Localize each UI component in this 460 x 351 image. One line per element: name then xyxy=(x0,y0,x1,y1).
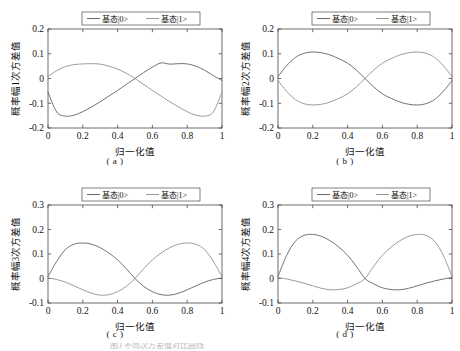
y-tick-label: -0.2 xyxy=(259,123,274,133)
y-tick-label: 0.1 xyxy=(32,49,44,59)
x-tick-label: 0.8 xyxy=(411,306,423,316)
y-tick-label: 0.3 xyxy=(32,200,44,210)
x-tick-label: 0 xyxy=(46,131,51,141)
y-tick-label: -0.1 xyxy=(259,99,274,109)
y-tick-label: 0.3 xyxy=(262,200,274,210)
chart-panel-c: 00.20.40.60.81-0.100.10.20.3归一化值概率幅3次方差值… xyxy=(0,176,230,351)
y-tick-label: 0 xyxy=(39,74,44,84)
y-axis-label-d: 概率幅4次方差值 xyxy=(240,217,251,292)
x-tick-label: 0.4 xyxy=(112,131,124,141)
legend-b[interactable]: 基态|0>基态|1> xyxy=(312,12,430,25)
x-tick-label: 0.6 xyxy=(146,306,158,316)
x-tick-label: 0.4 xyxy=(342,131,354,141)
x-tick-label: 0.6 xyxy=(376,306,388,316)
x-tick-label: 0.2 xyxy=(77,131,89,141)
y-tick-label: 0 xyxy=(269,74,274,84)
y-tick-label: 0.1 xyxy=(262,249,274,259)
legend-c[interactable]: 基态|0>基态|1> xyxy=(82,188,200,201)
y-tick-label: -0.1 xyxy=(29,99,44,109)
legend-d[interactable]: 基态|0>基态|1> xyxy=(312,188,430,201)
x-tick-label: 1 xyxy=(450,131,455,141)
x-tick-label: 0.4 xyxy=(112,306,124,316)
chart-panel-b: 00.20.40.60.81-0.2-0.100.10.2归一化值概率幅2次方差… xyxy=(230,0,460,176)
chart-panel-a: 00.20.40.60.81-0.2-0.100.10.2归一化值概率幅1次方差… xyxy=(0,0,230,176)
legend-label-0: 基态|0> xyxy=(102,14,129,24)
x-tick-label: 0.6 xyxy=(376,131,388,141)
figure-footer-strip: 图3 不同次方差值对比曲线 xyxy=(0,343,460,351)
y-axis-label-c: 概率幅3次方差值 xyxy=(10,217,21,292)
x-tick-label: 0.2 xyxy=(307,306,319,316)
legend-label-0: 基态|0> xyxy=(102,190,129,200)
legend-a[interactable]: 基态|0>基态|1> xyxy=(82,12,200,25)
y-tick-label: 0 xyxy=(39,274,44,284)
panel-caption-d: ( d ) xyxy=(230,329,460,339)
legend-label-0: 基态|0> xyxy=(332,190,359,200)
x-tick-label: 1 xyxy=(220,131,225,141)
y-tick-label: 0.2 xyxy=(32,225,44,235)
figure-footer-caption: 图3 不同次方差值对比曲线 xyxy=(110,343,204,350)
y-axis-label-a: 概率幅1次方差值 xyxy=(10,41,21,116)
x-tick-label: 1 xyxy=(220,306,225,316)
figure-panel-grid: 00.20.40.60.81-0.2-0.100.10.2归一化值概率幅1次方差… xyxy=(0,0,460,351)
plot-svg-d: 00.20.40.60.81-0.100.10.20.3归一化值概率幅4次方差值… xyxy=(230,176,460,351)
y-tick-label: -0.2 xyxy=(29,123,44,133)
chart-panel-d: 00.20.40.60.81-0.100.10.20.3归一化值概率幅4次方差值… xyxy=(230,176,460,351)
plot-svg-a: 00.20.40.60.81-0.2-0.100.10.2归一化值概率幅1次方差… xyxy=(0,0,230,176)
x-tick-label: 0.6 xyxy=(146,131,158,141)
legend-label-1: 基态|1> xyxy=(391,190,418,200)
x-tick-label: 0.8 xyxy=(411,131,423,141)
x-tick-label: 0.8 xyxy=(181,131,193,141)
x-tick-label: 0.4 xyxy=(342,306,354,316)
x-tick-label: 1 xyxy=(450,306,455,316)
y-tick-label: 0 xyxy=(269,274,274,284)
y-tick-label: 0.2 xyxy=(32,24,44,34)
x-tick-label: 0 xyxy=(276,306,281,316)
y-tick-label: -0.1 xyxy=(259,298,274,308)
y-tick-label: 0.2 xyxy=(262,225,274,235)
x-tick-label: 0.2 xyxy=(77,306,89,316)
legend-label-1: 基态|1> xyxy=(161,190,188,200)
x-tick-label: 0.2 xyxy=(307,131,319,141)
y-tick-label: 0.1 xyxy=(262,49,274,59)
x-tick-label: 0.8 xyxy=(181,306,193,316)
y-tick-label: -0.1 xyxy=(29,298,44,308)
plot-svg-b: 00.20.40.60.81-0.2-0.100.10.2归一化值概率幅2次方差… xyxy=(230,0,460,176)
x-tick-label: 0 xyxy=(46,306,51,316)
legend-label-1: 基态|1> xyxy=(391,14,418,24)
panel-caption-b: ( b ) xyxy=(230,156,460,166)
panel-caption-c: ( c ) xyxy=(0,329,230,339)
y-tick-label: 0.1 xyxy=(32,249,44,259)
y-axis-label-b: 概率幅2次方差值 xyxy=(240,41,251,116)
plot-svg-c: 00.20.40.60.81-0.100.10.20.3归一化值概率幅3次方差值… xyxy=(0,176,230,351)
plot-frame-d xyxy=(278,205,452,303)
panel-caption-a: ( a ) xyxy=(0,156,230,166)
y-tick-label: 0.2 xyxy=(262,24,274,34)
legend-label-1: 基态|1> xyxy=(161,14,188,24)
legend-label-0: 基态|0> xyxy=(332,14,359,24)
x-tick-label: 0 xyxy=(276,131,281,141)
plot-frame-c xyxy=(48,205,222,303)
